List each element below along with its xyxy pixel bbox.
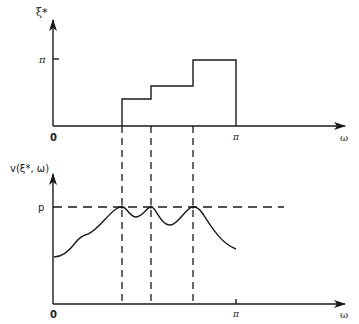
bottom-x-label: ω (340, 309, 348, 320)
bottom-x-tick-label: π (232, 309, 240, 319)
top-x-tick-label: π (232, 132, 240, 142)
top-y-label: ξ* (36, 6, 48, 19)
bottom-y-label: v(ξ*, ω) (10, 163, 49, 174)
step-function (122, 60, 236, 126)
v-curve (54, 207, 236, 257)
top-x-label: ω (340, 132, 348, 143)
bottom-origin-label: 0 (50, 309, 57, 320)
top-origin-label: 0 (50, 132, 57, 143)
level-p-label: p (38, 202, 44, 213)
diagram-canvas: ξ* π 0 π ω v(ξ*, ω) p 0 π ω (0, 0, 359, 324)
top-plot (53, 20, 345, 126)
bottom-plot (53, 174, 345, 304)
top-y-tick-label: π (38, 54, 46, 65)
